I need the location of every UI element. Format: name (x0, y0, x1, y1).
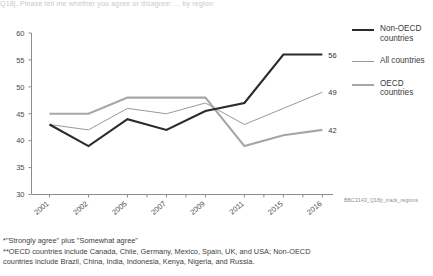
chart-container: Q18j. Please tell me whether you agree o… (0, 0, 433, 276)
legend-label-non-oecd: Non-OECD countries (380, 24, 421, 43)
series-end-label: 42 (328, 126, 336, 135)
legend-label-oecd-line1: OECD (380, 79, 404, 88)
series-end-label: 56 (328, 51, 336, 60)
y-axis-tick-labels: 30354045505560 (16, 29, 24, 200)
legend-item-non-oecd: Non-OECD countries (352, 24, 433, 43)
y-tick-label: 40 (16, 136, 24, 145)
x-axis-tick-labels: 20012002200520072009201120152016 (32, 199, 323, 217)
chart-legend: Non-OECD countries All countries OECD co… (352, 24, 433, 111)
legend-label-all-countries: All countries (380, 56, 425, 66)
x-tick-label: 2009 (188, 199, 207, 217)
x-tick-label: 2007 (149, 199, 168, 217)
legend-label-non-oecd-line1: Non-OECD (380, 24, 421, 33)
series-line-oecd (50, 98, 323, 146)
legend-label-all-countries-line1: All countries (380, 56, 425, 65)
series-end-value-labels: 564942 (328, 51, 336, 135)
footnotes: *"Strongly agree" plus "Somewhat agree" … (3, 236, 333, 268)
y-tick-label: 50 (16, 83, 24, 92)
data-series-group (50, 55, 323, 147)
x-tick-label: 2016 (305, 199, 324, 217)
legend-item-all-countries: All countries (352, 56, 433, 66)
legend-label-non-oecd-line2: countries (380, 34, 413, 43)
x-tick-label: 2005 (110, 199, 129, 217)
y-tick-label: 45 (16, 110, 24, 119)
source-code-label: BBC3143_Q18jt_track_regions (344, 197, 418, 203)
x-tick-label: 2002 (71, 199, 90, 217)
legend-swatch-non-oecd-icon (352, 29, 374, 31)
legend-item-oecd: OECD countries (352, 79, 433, 98)
series-end-label: 49 (328, 88, 336, 97)
series-line-non-oecd (50, 55, 323, 147)
x-tick-label: 2001 (32, 199, 51, 217)
y-tick-label: 35 (16, 163, 24, 172)
y-tick-label: 60 (16, 29, 24, 38)
legend-swatch-all-countries-icon (352, 61, 374, 62)
y-tick-label: 30 (16, 190, 24, 199)
x-tick-label: 2015 (266, 199, 285, 217)
legend-swatch-oecd-icon (352, 84, 374, 86)
footnote-2: **OECD countries include Canada, Chile, … (3, 247, 333, 268)
x-tick-label: 2011 (228, 199, 246, 216)
legend-label-oecd: OECD countries (380, 79, 413, 98)
legend-label-oecd-line2: countries (380, 88, 413, 97)
y-tick-label: 55 (16, 56, 24, 65)
footnote-1: *"Strongly agree" plus "Somewhat agree" (3, 236, 333, 247)
